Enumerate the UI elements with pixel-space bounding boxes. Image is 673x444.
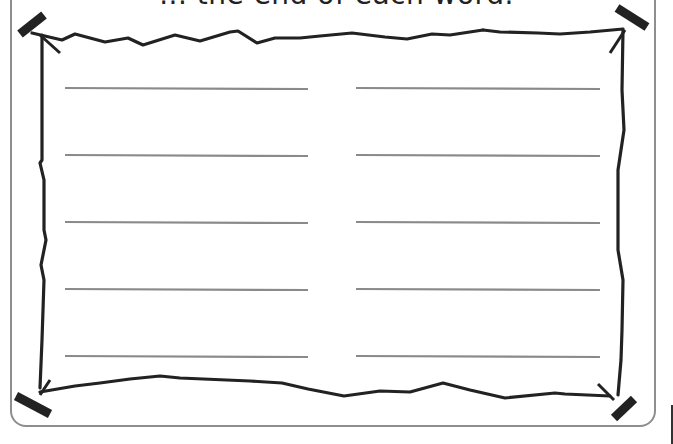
answer-line-left-2[interactable] — [65, 155, 308, 156]
scroll-left-edge — [40, 35, 46, 388]
pin-icon-bottom-left — [16, 380, 50, 414]
answer-line-left-3[interactable] — [65, 222, 308, 223]
scroll-bottom-edge — [40, 376, 610, 398]
answer-line-left-1[interactable] — [65, 88, 308, 89]
answer-line-left-4[interactable] — [65, 289, 308, 290]
answer-line-right-3[interactable] — [356, 222, 600, 223]
scroll-right-edge — [618, 30, 624, 395]
answer-line-right-2[interactable] — [356, 155, 600, 156]
answer-line-right-1[interactable] — [356, 88, 600, 89]
scroll-top-edge — [32, 30, 483, 45]
pin-icon-bottom-right — [598, 384, 634, 418]
answer-line-right-4[interactable] — [356, 289, 600, 290]
scroll-top-right-edge — [483, 29, 623, 34]
scroll-frame — [0, 0, 673, 444]
answer-line-left-5[interactable] — [65, 356, 308, 357]
answer-line-right-5[interactable] — [356, 356, 600, 357]
